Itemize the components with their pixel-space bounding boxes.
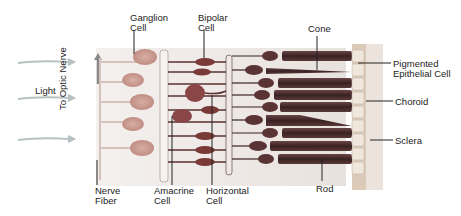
label-rod: Rod xyxy=(316,184,333,194)
label-line: Cell xyxy=(130,23,168,33)
label-horizontal-cell: Horizontal Cell xyxy=(206,186,249,206)
outer-plexiform xyxy=(226,55,232,175)
label-ganglion-cell: Ganglion Cell xyxy=(130,13,168,33)
label-to-optic-nerve: To Optic Nerve xyxy=(58,40,68,110)
label-amacrine-cell: Amacrine Cell xyxy=(154,186,194,206)
label-line: Epithelial Cell xyxy=(393,69,451,79)
retina-diagram xyxy=(0,0,461,216)
label-line: Cell xyxy=(198,23,228,33)
horizontal-cell-body xyxy=(185,84,205,102)
pigmented-epithelium xyxy=(352,50,364,174)
label-line: Fiber xyxy=(95,196,120,206)
label-line: Cell xyxy=(154,196,194,206)
label-choroid: Choroid xyxy=(395,97,428,107)
amacrine-cell-body xyxy=(172,109,192,123)
label-line: Cell xyxy=(206,196,249,206)
label-bipolar-cell: Bipolar Cell xyxy=(198,13,228,33)
label-sclera: Sclera xyxy=(395,136,422,146)
label-pigmented-epithelial-cell: Pigmented Epithelial Cell xyxy=(393,59,451,79)
plexiform-layer xyxy=(160,50,168,182)
label-light: Light xyxy=(35,86,56,96)
label-cone: Cone xyxy=(308,24,331,34)
label-nerve-fiber: Nerve Fiber xyxy=(95,186,120,206)
